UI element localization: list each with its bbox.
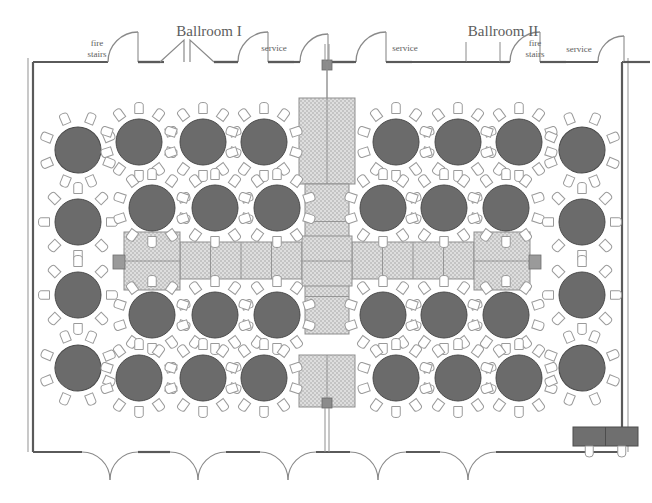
wall-label: fire xyxy=(91,38,104,48)
round-table xyxy=(180,119,226,165)
round-table xyxy=(241,355,287,401)
room-label: Ballroom I xyxy=(176,23,241,39)
round-table xyxy=(421,185,467,231)
round-table xyxy=(192,292,238,338)
chair xyxy=(543,291,554,300)
wall-label: service xyxy=(261,43,286,53)
wall-label: service xyxy=(392,43,417,53)
chair xyxy=(440,169,449,180)
chair xyxy=(148,276,157,287)
chair xyxy=(74,324,83,335)
chair xyxy=(39,291,50,300)
chair xyxy=(260,407,269,418)
round-table xyxy=(421,292,467,338)
round-table xyxy=(55,199,101,245)
chair xyxy=(39,218,50,227)
round-table xyxy=(360,185,406,231)
chair xyxy=(611,218,622,227)
chair xyxy=(199,103,208,114)
chair xyxy=(392,339,401,350)
chair xyxy=(379,276,388,287)
round-table xyxy=(559,272,605,318)
wall-label: stairs xyxy=(526,49,545,59)
chair xyxy=(273,169,282,180)
chair xyxy=(515,103,524,114)
chair xyxy=(148,169,157,180)
round-table xyxy=(254,185,300,231)
chair xyxy=(211,237,220,248)
chair xyxy=(199,407,208,418)
chair xyxy=(148,237,157,248)
chair xyxy=(454,103,463,114)
chair xyxy=(107,291,118,300)
round-table xyxy=(435,355,481,401)
chair xyxy=(273,276,282,287)
chair xyxy=(199,339,208,350)
chair xyxy=(578,183,587,194)
chair xyxy=(502,169,511,180)
chair xyxy=(392,103,401,114)
round-table xyxy=(435,119,481,165)
round-table xyxy=(373,355,419,401)
round-table xyxy=(483,292,529,338)
chair xyxy=(135,339,144,350)
chair xyxy=(135,103,144,114)
chair xyxy=(273,237,282,248)
round-table xyxy=(496,355,542,401)
chair xyxy=(454,407,463,418)
chair xyxy=(515,407,524,418)
wall-label: stairs xyxy=(88,49,107,59)
chair xyxy=(618,446,626,457)
chair xyxy=(440,237,449,248)
round-table xyxy=(55,272,101,318)
room-label: Ballroom II xyxy=(468,23,538,39)
chair xyxy=(135,407,144,418)
wall-label: fire xyxy=(529,38,542,48)
chair xyxy=(211,276,220,287)
round-table xyxy=(254,292,300,338)
chair xyxy=(260,339,269,350)
chair xyxy=(578,256,587,267)
floorplan-svg: Ballroom IBallroom IIfirestairsservicese… xyxy=(0,0,652,503)
chair xyxy=(74,256,83,267)
chair xyxy=(260,103,269,114)
chair xyxy=(611,291,622,300)
round-table xyxy=(241,119,287,165)
round-table xyxy=(116,119,162,165)
chair xyxy=(502,237,511,248)
chair xyxy=(379,237,388,248)
chair xyxy=(379,169,388,180)
chair xyxy=(392,407,401,418)
chair xyxy=(585,446,593,457)
round-table xyxy=(180,355,226,401)
chair xyxy=(502,276,511,287)
round-table xyxy=(483,185,529,231)
chair xyxy=(578,324,587,335)
round-table xyxy=(559,199,605,245)
round-table xyxy=(116,355,162,401)
round-table xyxy=(192,185,238,231)
round-table xyxy=(373,119,419,165)
chair xyxy=(515,339,524,350)
round-table xyxy=(496,119,542,165)
floorplan-canvas: Ballroom IBallroom IIfirestairsservicese… xyxy=(0,0,652,503)
wall-label: service xyxy=(566,44,591,54)
round-table xyxy=(129,292,175,338)
chair xyxy=(211,169,220,180)
chair xyxy=(440,276,449,287)
round-table xyxy=(360,292,406,338)
chair xyxy=(454,339,463,350)
chair xyxy=(543,218,554,227)
chair xyxy=(74,183,83,194)
round-table xyxy=(129,185,175,231)
